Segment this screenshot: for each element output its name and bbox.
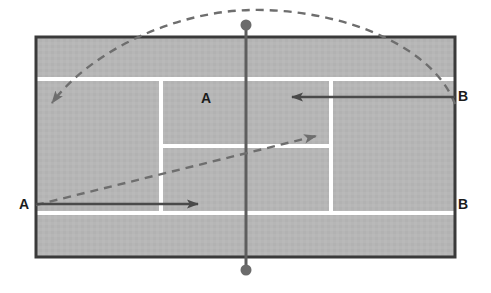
player-label-b-lower: B — [458, 197, 468, 211]
player-label-b-upper: B — [458, 89, 468, 103]
net-post-top-icon — [241, 20, 252, 31]
court-graphic — [0, 0, 491, 293]
player-label-a-service-box: A — [201, 91, 211, 105]
net-post-bottom-icon — [241, 265, 252, 276]
player-label-a-baseline: A — [19, 197, 29, 211]
tennis-court-diagram: A A B B — [0, 0, 491, 293]
